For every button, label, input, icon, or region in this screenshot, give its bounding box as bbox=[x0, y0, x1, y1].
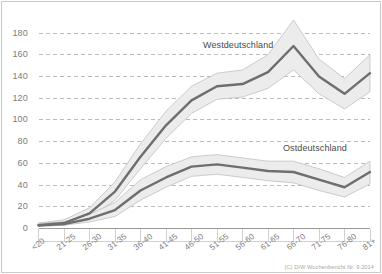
y-tick-label: 160 bbox=[2, 50, 28, 59]
copyright-note: (C) DIW Wochenbericht Nr. 9.2014 bbox=[284, 264, 374, 270]
y-tick-label: 180 bbox=[2, 29, 28, 38]
y-tick-label: 20 bbox=[2, 202, 28, 211]
series-label-westdeutschland: Westdeutschland bbox=[203, 40, 273, 50]
y-tick-label: 100 bbox=[2, 115, 28, 124]
chart-figure: 020406080100120140160180 <2021-2526-3031… bbox=[0, 0, 382, 274]
y-tick-label: 60 bbox=[2, 159, 28, 168]
y-tick-label: 120 bbox=[2, 94, 28, 103]
series-label-ostdeutschland: Ostdeutschland bbox=[283, 143, 347, 153]
y-tick-label: 80 bbox=[2, 137, 28, 146]
y-tick-label: 140 bbox=[2, 72, 28, 81]
y-tick-label: 0 bbox=[2, 224, 28, 233]
confidence-bands bbox=[39, 20, 371, 226]
y-tick-label: 40 bbox=[2, 181, 28, 190]
